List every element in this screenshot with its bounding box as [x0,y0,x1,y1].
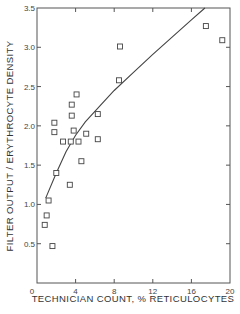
data-point-square [61,139,66,144]
y-tick-label: 2.0 [24,122,36,131]
data-point-square [69,102,74,107]
data-point-square [52,130,57,135]
data-points [42,24,225,249]
data-point-square [54,171,59,176]
data-point-square [117,44,122,49]
x-axis-ticks: 048121620 [30,8,235,296]
data-point-square [44,213,49,218]
data-point-square [95,137,100,142]
data-point-square [220,38,225,43]
data-point-square [76,139,81,144]
data-point-square [68,139,73,144]
plot-frame [37,8,230,283]
data-point-square [117,78,122,83]
data-point-square [42,222,47,227]
y-axis-ticks: 0.51.01.52.02.53.03.5 [24,4,230,249]
y-tick-label: 1.5 [24,161,36,170]
y-axis-title: FILTER OUTPUT / ERYTHROCYTE DENSITY [4,40,15,251]
scatter-chart: 048121620 0.51.01.52.02.53.03.5 TECHNICI… [0,0,240,314]
data-point-square [50,244,55,249]
y-tick-label: 3.0 [24,43,36,52]
data-point-square [84,131,89,136]
y-tick-label: 3.5 [24,4,36,13]
y-tick-label: 2.5 [24,83,36,92]
data-point-square [95,112,100,117]
data-point-square [52,120,57,125]
data-point-square [46,198,51,203]
data-point-square [79,159,84,164]
data-point-square [71,128,76,133]
data-point-square [203,24,208,29]
data-point-square [74,92,79,97]
data-point-square [69,113,74,118]
data-point-square [67,182,72,187]
x-axis-title: TECHNICIAN COUNT, % RETICULOCYTES [32,293,235,304]
y-tick-label: 1.0 [24,200,36,209]
y-tick-label: 0.5 [24,240,36,249]
